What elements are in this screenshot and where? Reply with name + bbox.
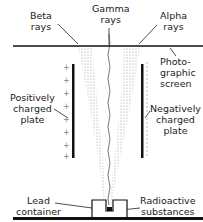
beta-ray-beam bbox=[78, 46, 106, 205]
label-line: graphic bbox=[160, 67, 196, 78]
plus-sign: + bbox=[63, 114, 70, 125]
label-line: Gamma bbox=[92, 3, 130, 14]
positively-charged-plate-label: Positively charged plate bbox=[10, 92, 55, 125]
label-line: Radioactive bbox=[140, 195, 196, 206]
label-line: substances bbox=[140, 206, 196, 217]
label-line: rays bbox=[92, 14, 130, 25]
label-line: charged bbox=[10, 103, 55, 114]
photographic-screen-label: Photo- graphic screen bbox=[160, 56, 196, 89]
label-line: Photo- bbox=[160, 56, 196, 67]
plus-sign: + bbox=[63, 140, 70, 151]
positive-plate bbox=[72, 64, 75, 158]
label-line: Positively bbox=[10, 92, 55, 103]
beta-leader-line bbox=[58, 24, 78, 44]
alpha-leader-line bbox=[139, 25, 157, 44]
label-line: rays bbox=[160, 21, 187, 32]
label-line: Beta bbox=[30, 10, 52, 21]
gamma-rays-label: Gamma rays bbox=[92, 3, 130, 25]
plus-sign: + bbox=[63, 151, 70, 162]
screen-leader-line bbox=[170, 48, 176, 56]
alpha-ray-beam bbox=[110, 46, 140, 205]
label-line: screen bbox=[160, 78, 196, 89]
label-line: Negatively bbox=[150, 103, 201, 114]
gamma-ray-beam bbox=[108, 34, 110, 205]
alpha-rays-label: Alpha rays bbox=[160, 10, 187, 32]
label-line: charged bbox=[150, 114, 201, 125]
radioactive-substances-label: Radioactive substances bbox=[140, 195, 196, 217]
label-line: Alpha bbox=[160, 10, 187, 21]
base-line bbox=[13, 217, 203, 220]
label-line: plate bbox=[10, 114, 55, 125]
label-line: Lead bbox=[16, 195, 61, 206]
label-line: plate bbox=[150, 125, 201, 136]
negative-plate bbox=[141, 64, 144, 158]
plus-sign: + bbox=[63, 127, 70, 138]
label-line: rays bbox=[30, 21, 52, 32]
negatively-charged-plate-label: Negatively charged plate bbox=[150, 103, 201, 136]
beta-rays-label: Beta rays bbox=[30, 10, 52, 32]
radioactive-substance bbox=[107, 207, 112, 211]
lead-container-label: Lead container bbox=[16, 195, 61, 217]
plus-sign: + bbox=[63, 62, 70, 73]
plus-sign: + bbox=[63, 75, 70, 86]
plus-sign: + bbox=[63, 101, 70, 112]
label-line: container bbox=[16, 206, 61, 217]
plus-sign: + bbox=[63, 88, 70, 99]
